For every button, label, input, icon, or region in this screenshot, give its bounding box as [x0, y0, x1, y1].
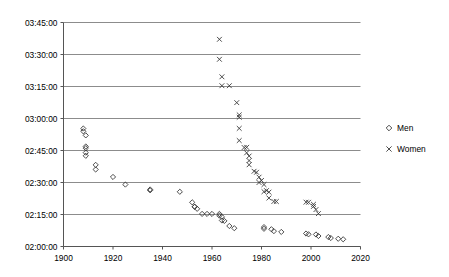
data-point-women: [227, 83, 232, 88]
x-tick-label: 1900: [54, 253, 73, 263]
legend-label-women: Women: [397, 144, 426, 154]
y-tick-label: 03:00:00: [25, 114, 58, 124]
data-point-women: [220, 83, 225, 88]
scatter-chart: 02:00:0002:15:0002:30:0002:45:0003:00:00…: [0, 0, 449, 277]
y-tick-label: 03:30:00: [25, 50, 58, 60]
data-point-women: [217, 57, 222, 62]
data-point-women: [247, 162, 252, 167]
data-point-men: [261, 224, 266, 229]
data-point-women: [306, 200, 311, 205]
chart-canvas: 02:00:0002:15:0002:30:0002:45:0003:00:00…: [0, 0, 449, 277]
x-tick-label: 2000: [302, 253, 321, 263]
data-point-men: [261, 226, 266, 231]
data-point-women: [244, 150, 249, 155]
x-tick-label: 1960: [203, 253, 222, 263]
data-point-men: [279, 229, 284, 234]
legend-marker-men: [386, 125, 392, 131]
data-point-women: [237, 126, 242, 131]
data-point-women: [274, 199, 279, 204]
legend-marker-women: [386, 146, 391, 151]
data-point-women: [217, 37, 222, 42]
data-point-women: [267, 196, 272, 201]
x-axis-tick-labels: 1900192019401960198020002020: [54, 247, 370, 263]
data-point-men: [83, 144, 88, 149]
y-tick-label: 02:15:00: [25, 210, 58, 220]
data-point-men: [328, 235, 333, 240]
data-point-men: [110, 174, 115, 179]
data-point-men: [306, 232, 311, 237]
data-point-women: [316, 211, 321, 216]
series-men-markers: [81, 126, 346, 242]
chart-legend: MenWomen: [386, 123, 426, 154]
data-point-women: [234, 100, 239, 105]
data-point-women: [237, 112, 242, 117]
data-point-men: [232, 226, 237, 231]
x-tick-label: 1920: [104, 253, 123, 263]
gridlines-group: [64, 23, 361, 247]
data-point-men: [217, 211, 222, 216]
y-axis-tick-labels: 02:00:0002:15:0002:30:0002:45:0003:00:00…: [25, 18, 64, 252]
y-tick-label: 02:00:00: [25, 242, 58, 252]
data-point-women: [247, 154, 252, 159]
y-tick-label: 02:30:00: [25, 178, 58, 188]
data-point-women: [304, 200, 309, 205]
y-tick-label: 03:15:00: [25, 82, 58, 92]
data-point-men: [303, 231, 308, 236]
data-point-men: [341, 237, 346, 242]
data-point-women: [314, 207, 319, 212]
data-point-women: [257, 175, 262, 180]
y-tick-label: 02:45:00: [25, 146, 58, 156]
data-point-men: [326, 234, 331, 239]
data-point-women: [220, 74, 225, 79]
y-tick-label: 03:45:00: [25, 18, 58, 28]
data-point-men: [336, 236, 341, 241]
data-point-women: [267, 190, 272, 195]
data-point-women: [237, 138, 242, 143]
x-tick-label: 1980: [252, 253, 271, 263]
data-point-men: [227, 223, 232, 228]
legend-label-men: Men: [397, 123, 414, 133]
data-point-women: [271, 199, 276, 204]
series-women-markers: [217, 37, 321, 216]
x-tick-label: 1940: [153, 253, 172, 263]
x-tick-label: 2020: [351, 253, 370, 263]
data-point-men: [177, 189, 182, 194]
data-point-women: [247, 158, 252, 163]
axes-group: [64, 23, 361, 247]
